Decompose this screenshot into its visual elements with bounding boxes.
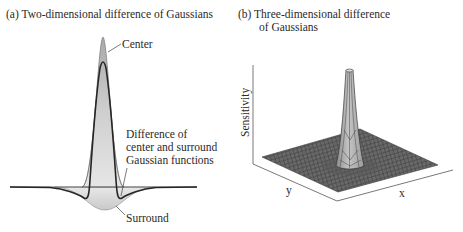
- difference-label-line1: Difference of: [126, 128, 188, 140]
- panel-a: (a) Two-dimensional difference of Gaussi…: [6, 8, 218, 224]
- panel-b-title-line1: (b) Three-dimensional difference: [238, 8, 390, 21]
- panel-b-title-line2: of Gaussians: [259, 21, 319, 33]
- figure-canvas: (a) Two-dimensional difference of Gaussi…: [0, 0, 463, 232]
- difference-label-line3: Gaussian functions: [126, 154, 214, 166]
- surround-leader-line: [116, 206, 125, 215]
- x-axis-label: x: [399, 187, 405, 199]
- panel-a-title: (a) Two-dimensional difference of Gaussi…: [6, 8, 214, 21]
- z-axis-label: Sensitivity: [239, 88, 252, 137]
- peak-tip: [346, 69, 353, 72]
- figure: (a) Two-dimensional difference of Gaussi…: [0, 0, 463, 232]
- center-peak: [336, 70, 364, 169]
- center-leader-line: [108, 44, 121, 52]
- center-label: Center: [122, 38, 153, 50]
- surround-label: Surround: [126, 212, 169, 224]
- difference-label-line2: center and surround: [126, 141, 218, 153]
- y-axis-label: y: [286, 184, 292, 197]
- center-gaussian-shape: [82, 37, 124, 187]
- panel-b: (b) Three-dimensional difference of Gaus…: [238, 8, 453, 201]
